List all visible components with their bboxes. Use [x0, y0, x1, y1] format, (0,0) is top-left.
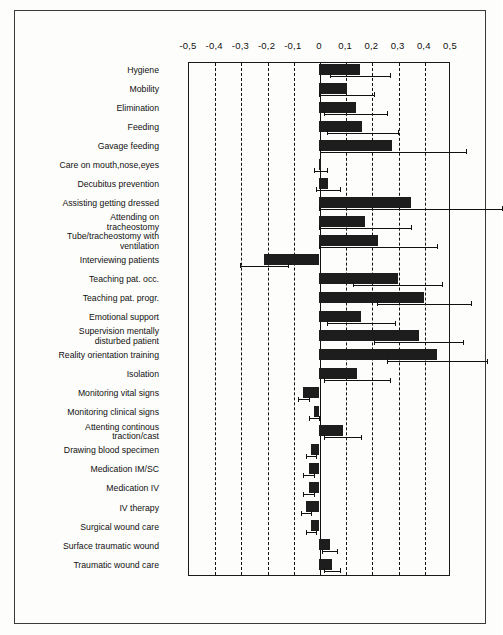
bar-row: Tube/tracheostomy withventilation [0, 233, 501, 252]
error-bar-cap [322, 549, 323, 554]
x-tick-label: -0,2 [258, 40, 275, 51]
bar-row: Supervision mentallydisturbed patient [0, 329, 501, 348]
bar-row: Reality orientation training [0, 348, 501, 367]
category-label: Teaching pat. progr. [0, 294, 159, 304]
error-bar-line [353, 285, 442, 286]
error-bar-cap [374, 92, 375, 97]
x-tick-label: -0,3 [232, 40, 249, 51]
error-bar-cap [471, 301, 472, 306]
error-bar-cap [288, 263, 289, 268]
error-bar-cap [330, 73, 331, 78]
bar [303, 387, 319, 398]
error-bar-cap [303, 492, 304, 497]
error-bar-cap [314, 168, 315, 173]
bar-row: Teaching pat. occ. [0, 271, 501, 290]
category-label: Monitoring vital signs [0, 389, 159, 399]
error-bar-cap [319, 416, 320, 421]
category-label: Medication IV [0, 484, 159, 494]
category-label: Reality orientation training [0, 351, 159, 361]
category-label: Surgical wound care [0, 523, 159, 533]
error-bar-cap [319, 244, 320, 249]
bar-row: Medication IM/SC [0, 462, 501, 481]
bar [306, 501, 319, 512]
bar [311, 444, 319, 455]
category-label: Teaching pat. occ. [0, 275, 159, 285]
error-bar-line [316, 190, 340, 191]
error-bar-line [298, 399, 309, 400]
error-bar-cap [374, 340, 375, 345]
bar-row: Assisting getting dressed [0, 195, 501, 214]
error-bar-line [240, 266, 287, 267]
bar-row: Monitoring clinical signs [0, 405, 501, 424]
error-bar-cap [353, 282, 354, 287]
bar-row: Monitoring vital signs [0, 386, 501, 405]
error-bar-cap [314, 492, 315, 497]
bar-row: Gavage feeding [0, 138, 501, 157]
category-label: Traumatic wound care [0, 561, 159, 571]
error-bar-cap [327, 321, 328, 326]
error-bar-cap [324, 111, 325, 116]
bar [311, 520, 319, 531]
error-bar-cap [306, 530, 307, 535]
bar [319, 330, 419, 341]
error-bar-cap [324, 568, 325, 573]
error-bar-line [303, 494, 314, 495]
category-label-line: Emotional support [0, 313, 159, 323]
category-label: Hygiene [0, 66, 159, 76]
category-label: Monitoring clinical signs [0, 408, 159, 418]
bar-rows-container: HygieneMobilityEliminationFeedingGavage … [0, 62, 501, 576]
bar [319, 159, 321, 170]
category-label-line: traction/cast [0, 432, 159, 442]
category-label: Interviewing patients [0, 256, 159, 266]
error-bar-cap [390, 378, 391, 383]
error-bar-cap [319, 206, 320, 211]
error-bar-line [322, 551, 338, 552]
error-bar-line [327, 323, 395, 324]
category-label: Isolation [0, 370, 159, 380]
error-bar-cap [319, 92, 320, 97]
error-bar-cap [463, 340, 464, 345]
bar [319, 311, 361, 322]
error-bar-cap [316, 187, 317, 192]
error-bar-cap [327, 168, 328, 173]
error-bar-cap [377, 301, 378, 306]
bar [319, 292, 424, 303]
category-label-line: Surgical wound care [0, 523, 159, 533]
bar [319, 349, 437, 360]
x-tick-label: 0,2 [364, 40, 378, 51]
bar-row: Surface traumatic wound [0, 538, 501, 557]
category-label-line: Assisting getting dressed [0, 199, 159, 209]
category-label-line: Teaching pat. occ. [0, 275, 159, 285]
error-bar-cap [316, 454, 317, 459]
bar-row: Feeding [0, 119, 501, 138]
x-tick-label: 0 [316, 40, 321, 51]
error-bar-line [327, 133, 398, 134]
bar [319, 539, 330, 550]
category-label-line: Monitoring clinical signs [0, 408, 159, 418]
category-label-line: disturbed patient [0, 337, 159, 347]
error-bar-line [324, 437, 361, 438]
category-label-line: IV therapy [0, 504, 159, 514]
category-label-line: Monitoring vital signs [0, 389, 159, 399]
x-tick-label: 0,3 [391, 40, 405, 51]
category-label-line: Elimination [0, 104, 159, 114]
error-bar-cap [387, 359, 388, 364]
bar-row: Emotional support [0, 310, 501, 329]
error-bar-cap [311, 511, 312, 516]
category-label-line: Care on mouth,nose,eyes [0, 161, 159, 171]
bar-row: Surgical wound care [0, 519, 501, 538]
error-bar-cap [316, 530, 317, 535]
error-bar-line [387, 361, 487, 362]
category-label: IV therapy [0, 504, 159, 514]
error-bar-cap [301, 511, 302, 516]
error-bar-cap [327, 130, 328, 135]
bar-row: Interviewing patients [0, 252, 501, 271]
error-bar-line [303, 475, 314, 476]
error-bar-line [319, 209, 502, 210]
bar [319, 83, 347, 94]
category-label-line: Hygiene [0, 66, 159, 76]
bar [264, 254, 319, 265]
bar [319, 273, 398, 284]
x-tick-label: -0,5 [179, 40, 196, 51]
bar-row: Traumatic wound care [0, 557, 501, 576]
